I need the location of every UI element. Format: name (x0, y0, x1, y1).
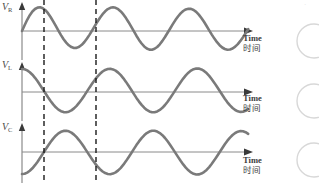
wave-curve-vl (22, 69, 248, 113)
x-axis-label-zh-vr: 时间 (243, 43, 262, 53)
clipped-circles (290, 0, 319, 183)
x-axis-label-zh-vc: 时间 (243, 165, 262, 175)
y-axis-subscript-vl: L (8, 64, 12, 71)
x-axis-label-en-vl: Time (243, 93, 262, 103)
corner-mark: · (304, 1, 306, 9)
clipped-circle-1 (297, 24, 319, 58)
clipped-circle-3 (297, 143, 319, 177)
y-axis-label-vl: VL (2, 60, 12, 72)
y-axis-label-vc: VC (2, 122, 12, 134)
y-axis-subscript-vc: C (8, 126, 12, 133)
y-axis-subscript-vr: R (8, 6, 12, 13)
x-axis-label-zh-vl: 时间 (243, 103, 262, 113)
x-axis-label-en-vc: Time (243, 155, 262, 165)
x-axis-label-en-vr: Time (243, 33, 262, 43)
y-axis-arrowhead-vr (19, 2, 25, 10)
wave-curve-vr (22, 7, 248, 49)
x-axis-label-vc: Time 时间 (243, 155, 262, 175)
x-axis-label-vr: Time 时间 (243, 33, 262, 53)
y-axis-label-vr: VR (2, 2, 12, 14)
x-axis-label-vl: Time 时间 (243, 93, 262, 113)
axes-vl (19, 62, 253, 121)
axes-vr (19, 2, 253, 60)
clipped-circle-2 (297, 84, 319, 118)
right-edge-decorations: · (290, 0, 319, 183)
wave-curve-vc (22, 131, 248, 175)
y-axis-arrowhead-vc (19, 123, 25, 131)
waveform-figure: VR Time 时间 VL Time 时间 (0, 0, 319, 183)
